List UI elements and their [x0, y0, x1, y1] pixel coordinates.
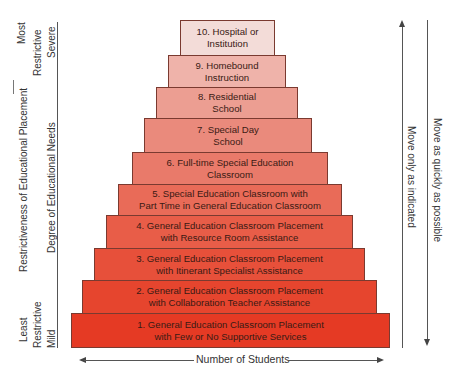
- severe-label: Severe: [46, 26, 57, 58]
- tier-4-resource-room: 4. General Education Classroom Placement…: [106, 215, 353, 249]
- tier-9-homebound: 9. Homebound Instruction: [168, 55, 286, 88]
- tier-6-full-time-special: 6. Full-time Special Education Classroom: [132, 152, 328, 185]
- right-arrow-head-icon: [377, 357, 384, 363]
- move-as-quickly-label: Move as quickly as possible: [432, 118, 443, 242]
- up-arrow-head-icon: [399, 20, 405, 27]
- tier-7-special-day: 7. Special Day School: [144, 118, 312, 153]
- tier-label: 6. Full-time Special Education Classroom: [167, 157, 294, 181]
- tier-5-special-part-time: 5. Special Education Classroom with Part…: [118, 184, 342, 216]
- down-arrow-line: [427, 20, 428, 340]
- tier-label: 10. Hospital or Institution: [197, 26, 259, 50]
- down-arrow-head-icon: [424, 339, 430, 346]
- restrictive-bottom-label: Restrictive: [32, 301, 43, 348]
- number-of-students-label: Number of Students: [196, 353, 289, 365]
- tier-10-hospital: 10. Hospital or Institution: [180, 20, 275, 56]
- restrictive-top-label: Restrictive: [32, 29, 43, 76]
- tier-label: 5. Special Education Classroom with Part…: [139, 188, 321, 212]
- tier-2-collaboration: 2. General Education Classroom Placement…: [82, 280, 377, 314]
- mild-label: Mild: [46, 330, 57, 348]
- tier-8-residential: 8. Residential School: [156, 87, 298, 119]
- tier-label: 3. General Education Classroom Placement…: [136, 253, 323, 277]
- move-only-as-indicated-label: Move only as indicated: [406, 126, 417, 228]
- educational-needs-label: Degree of Educational Needs: [46, 122, 57, 253]
- least-label: Least: [18, 318, 29, 342]
- tier-label: 4. General Education Classroom Placement…: [136, 220, 323, 244]
- restrictiveness-label: Restrictiveness of Educational Placement: [18, 88, 29, 272]
- tier-3-itinerant: 3. General Education Classroom Placement…: [94, 248, 365, 281]
- tier-1-general-education: 1. General Education Classroom Placement…: [71, 313, 390, 348]
- left-axis-line: [57, 22, 58, 348]
- up-arrow-line: [402, 26, 403, 348]
- bottom-arrow-line-left: [84, 360, 194, 361]
- bottom-arrow-line-right: [288, 360, 378, 361]
- tier-label: 7. Special Day School: [197, 124, 259, 148]
- tier-label: 8. Residential School: [198, 91, 256, 115]
- tier-label: 1. General Education Classroom Placement…: [137, 319, 324, 343]
- tier-label: 2. General Education Classroom Placement…: [136, 285, 323, 309]
- tier-label: 9. Homebound Instruction: [196, 60, 259, 84]
- most-label: Most: [16, 22, 27, 44]
- outer-rule-upper: [13, 80, 14, 94]
- outer-rule-top: [30, 78, 31, 84]
